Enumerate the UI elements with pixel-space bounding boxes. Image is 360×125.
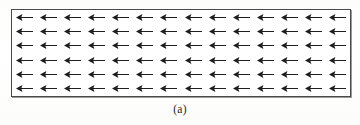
vector-arrow-icon [112,56,129,65]
vector-arrow-icon [329,84,346,93]
vector-arrow-icon [185,27,202,36]
vector-arrow-icon [136,41,153,50]
vector-arrow-icon [329,70,346,79]
vector-arrow-icon [185,13,202,22]
vector-field-box [11,9,351,97]
vector-arrow-icon [257,70,274,79]
vector-arrow-icon [281,84,298,93]
vector-arrow-icon [160,70,177,79]
vector-arrow-icon [233,27,250,36]
vector-arrow-icon [16,27,33,36]
vector-arrow-icon [40,41,57,50]
vector-arrow-icon [88,84,105,93]
vector-arrow-icon [112,13,129,22]
vector-arrow-icon [40,27,57,36]
vector-arrow-icon [112,41,129,50]
vector-arrow-icon [209,41,226,50]
vector-arrow-icon [185,84,202,93]
vector-arrow-icon [88,13,105,22]
vector-arrow-icon [16,13,33,22]
vector-field-grid [12,10,350,96]
vector-arrow-icon [305,13,322,22]
vector-arrow-icon [281,70,298,79]
vector-arrow-icon [329,41,346,50]
vector-arrow-icon [281,41,298,50]
vector-arrow-icon [88,41,105,50]
vector-arrow-icon [329,56,346,65]
vector-arrow-icon [329,13,346,22]
vector-arrow-icon [16,56,33,65]
vector-arrow-icon [16,41,33,50]
vector-arrow-icon [64,56,81,65]
vector-arrow-icon [257,84,274,93]
vector-arrow-icon [257,56,274,65]
vector-arrow-icon [209,84,226,93]
vector-arrow-icon [136,70,153,79]
vector-arrow-icon [305,70,322,79]
vector-arrow-icon [88,56,105,65]
vector-arrow-icon [136,27,153,36]
vector-arrow-icon [112,70,129,79]
vector-arrow-icon [64,41,81,50]
vector-arrow-icon [136,13,153,22]
figure-panel: (a) [0,0,360,125]
vector-arrow-icon [281,56,298,65]
vector-arrow-icon [233,70,250,79]
vector-arrow-icon [160,84,177,93]
vector-arrow-icon [329,27,346,36]
vector-arrow-icon [233,84,250,93]
figure-caption: (a) [0,103,360,115]
vector-arrow-icon [185,41,202,50]
vector-arrow-icon [281,27,298,36]
vector-arrow-icon [88,27,105,36]
vector-arrow-icon [160,13,177,22]
vector-arrow-icon [112,84,129,93]
vector-arrow-icon [257,13,274,22]
vector-arrow-icon [160,56,177,65]
vector-arrow-icon [185,56,202,65]
vector-arrow-icon [209,13,226,22]
vector-arrow-icon [305,84,322,93]
vector-arrow-icon [40,13,57,22]
vector-arrow-icon [16,84,33,93]
vector-arrow-icon [136,56,153,65]
vector-arrow-icon [281,13,298,22]
vector-arrow-icon [305,56,322,65]
vector-arrow-icon [40,84,57,93]
vector-arrow-icon [64,84,81,93]
vector-arrow-icon [233,41,250,50]
vector-arrow-icon [88,70,105,79]
vector-arrow-icon [112,27,129,36]
vector-arrow-icon [305,41,322,50]
vector-arrow-icon [305,27,322,36]
vector-arrow-icon [257,41,274,50]
vector-arrow-icon [136,84,153,93]
vector-arrow-icon [233,56,250,65]
vector-arrow-icon [185,70,202,79]
vector-arrow-icon [16,70,33,79]
vector-arrow-icon [64,70,81,79]
vector-arrow-icon [64,27,81,36]
vector-arrow-icon [160,27,177,36]
vector-arrow-icon [209,27,226,36]
vector-arrow-icon [209,56,226,65]
vector-arrow-icon [40,56,57,65]
vector-arrow-icon [209,70,226,79]
vector-arrow-icon [64,13,81,22]
vector-arrow-icon [233,13,250,22]
vector-arrow-icon [40,70,57,79]
vector-arrow-icon [257,27,274,36]
vector-arrow-icon [160,41,177,50]
